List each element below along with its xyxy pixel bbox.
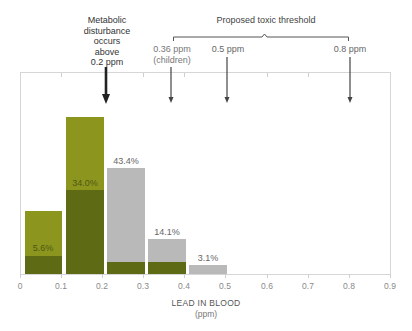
x-tick-label: 0.9 [384, 281, 396, 291]
x-tick-label: 0 [18, 281, 23, 291]
x-tick-label: 0.2 [96, 281, 108, 291]
x-tick-label: 0.7 [302, 281, 314, 291]
x-tick-label: 0.1 [55, 281, 67, 291]
threshold-0.8-label: 0.8 ppm [334, 44, 367, 55]
bar-0.3-0.4-overlay [148, 262, 186, 274]
bar-label-14.1: 14.1% [154, 227, 180, 237]
metabolic-line4: above [84, 47, 131, 58]
top-tick [308, 73, 309, 77]
brace-icon [174, 34, 349, 41]
x-tick [61, 274, 62, 278]
x-tick-label: 0.5 [219, 281, 231, 291]
top-tick [143, 73, 144, 77]
x-tick-label: 0.8 [343, 281, 355, 291]
plot-frame-left [20, 72, 21, 275]
x-tick [184, 274, 185, 278]
arrow-down-icon [348, 57, 353, 103]
bar-0.2-0.3-overlay [107, 262, 145, 274]
children-line1: 0.36 ppm [153, 44, 191, 55]
x-tick [349, 274, 350, 278]
x-tick [267, 274, 268, 278]
metabolic-annotation: Metabolic disturbance occurs above 0.2 p… [84, 15, 131, 68]
top-tick [184, 73, 185, 77]
plot-frame-right [390, 72, 391, 275]
children-line2: (children) [153, 55, 191, 66]
bar-0.2-0.3 [107, 168, 145, 274]
x-tick [20, 274, 21, 278]
children-threshold-annotation: 0.36 ppm (children) [153, 44, 191, 65]
bar-0.1-0.2-overlay [66, 190, 104, 274]
x-tick-label: 0.4 [178, 281, 190, 291]
metabolic-line3: occurs [84, 36, 131, 47]
x-tick [225, 274, 226, 278]
metabolic-line2: disturbance [84, 26, 131, 37]
x-tick-label: 0.3 [137, 281, 149, 291]
metabolic-line5: 0.2 ppm [84, 57, 131, 68]
x-axis-title: LEAD IN BLOOD [171, 298, 240, 308]
bar-label-34.0: 34.0% [72, 178, 98, 188]
top-tick [267, 73, 268, 77]
x-axis-units: (ppm) [195, 309, 217, 319]
top-tick [61, 73, 62, 77]
metabolic-line1: Metabolic [84, 15, 131, 26]
x-tick-label: 0.6 [261, 281, 273, 291]
threshold-0.5-label: 0.5 ppm [212, 44, 245, 55]
x-tick [143, 274, 144, 278]
x-axis-line [20, 274, 391, 275]
arrow-down-icon [225, 57, 230, 103]
bar-0-0.1-overlay [25, 256, 62, 274]
bar-label-5.6: 5.6% [33, 243, 54, 253]
bar-0.4-0.5 [189, 265, 227, 274]
bar-label-43.4: 43.4% [113, 156, 139, 166]
x-tick [390, 274, 391, 278]
x-tick [308, 274, 309, 278]
proposed-threshold-title: Proposed toxic threshold [216, 15, 315, 26]
plot-frame-top [20, 72, 391, 73]
bar-label-3.1: 3.1% [198, 253, 219, 263]
x-tick [102, 274, 103, 278]
